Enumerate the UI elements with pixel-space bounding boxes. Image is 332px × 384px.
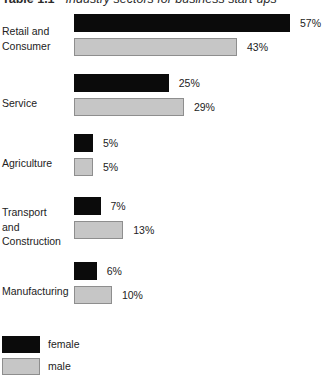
bar-male <box>74 286 112 304</box>
legend-label-female: female <box>48 337 80 352</box>
category-label: TransportandConstruction <box>2 205 72 249</box>
bar-value-label: 10% <box>122 288 143 302</box>
bar-value-label: 29% <box>194 100 215 114</box>
legend-item: female <box>0 336 332 358</box>
bar-value-label: 5% <box>103 160 118 174</box>
figure-title-number: Table 1.1 <box>2 0 55 6</box>
bar-male <box>74 158 93 176</box>
category-label: Agriculture <box>2 156 72 171</box>
bar-value-label: 6% <box>107 264 122 278</box>
bar-value-label: 43% <box>247 40 268 54</box>
bar-chart: Retail andConsumer57%43%Service25%29%Agr… <box>0 9 332 319</box>
category-label: Manufacturing <box>2 284 72 299</box>
bar-male <box>74 98 184 116</box>
category-label: Service <box>2 96 72 111</box>
category-label: Retail andConsumer <box>2 24 72 53</box>
bar-male <box>74 221 123 239</box>
bar-value-label: 13% <box>133 223 154 237</box>
bar-female <box>74 14 290 32</box>
legend-swatch-female <box>2 336 40 353</box>
bar-female <box>74 262 97 280</box>
chart-legend: femalemale <box>0 336 332 380</box>
legend-item: male <box>0 358 332 380</box>
bar-female <box>74 134 93 152</box>
bar-male <box>74 38 237 56</box>
bar-value-label: 25% <box>179 76 200 90</box>
figure-title-text: Industry sectors for business start-ups <box>66 0 277 6</box>
bar-female <box>74 197 101 215</box>
legend-label-male: male <box>48 359 71 374</box>
bar-female <box>74 74 169 92</box>
legend-swatch-male <box>2 358 40 375</box>
bar-value-label: 5% <box>103 136 118 150</box>
figure-title: Table 1.1Industry sectors for business s… <box>0 0 332 9</box>
bar-value-label: 57% <box>300 16 321 30</box>
bar-value-label: 7% <box>111 199 126 213</box>
